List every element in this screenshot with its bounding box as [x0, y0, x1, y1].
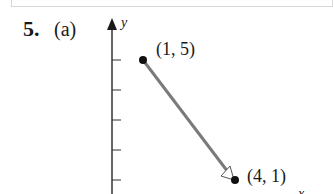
- point-label-1-5: (1, 5): [156, 39, 195, 60]
- point-1-5: [139, 56, 147, 64]
- y-ticks: [112, 60, 121, 180]
- y-axis-arrow-icon: [107, 18, 117, 30]
- point-label-4-1: (4, 1): [247, 166, 286, 187]
- x-axis-label: x: [297, 186, 305, 194]
- vector-segment: [143, 60, 228, 172]
- point-4-1: [231, 176, 239, 184]
- y-axis-label: y: [119, 15, 128, 30]
